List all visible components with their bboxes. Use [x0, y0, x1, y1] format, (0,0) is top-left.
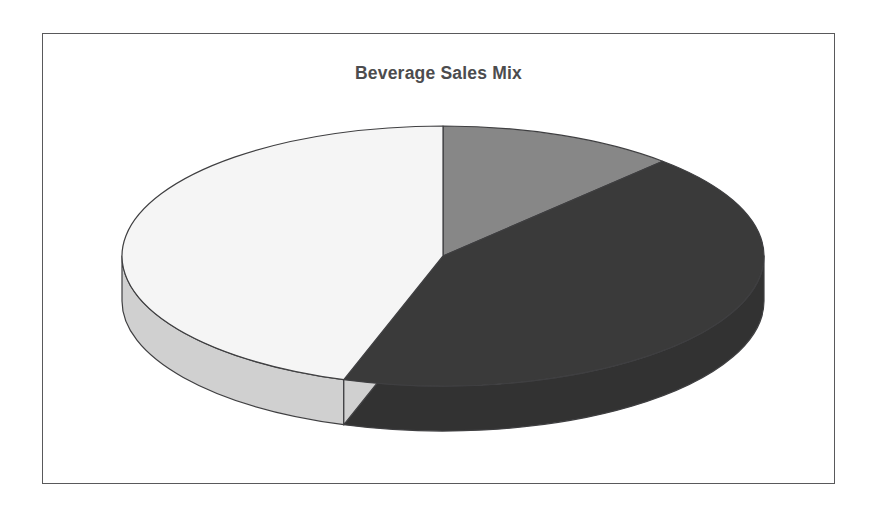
- chart-frame: Beverage Sales Mix: [42, 33, 835, 484]
- chart-canvas: Beverage Sales Mix: [0, 0, 877, 506]
- pie-top-faces: [122, 126, 764, 386]
- pie-chart-3d: [43, 34, 836, 485]
